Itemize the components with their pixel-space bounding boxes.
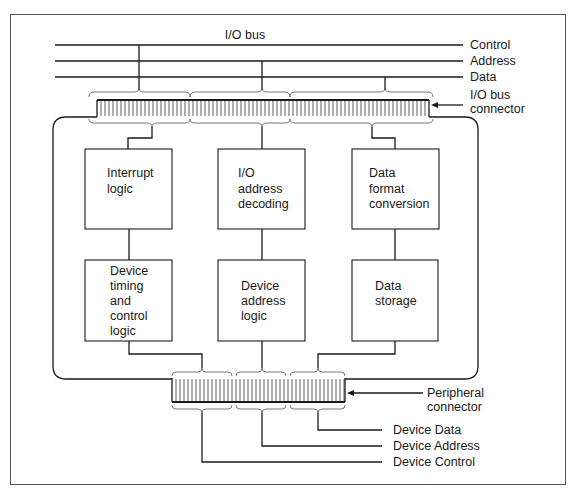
wire-timing-bottom [129,341,202,368]
peripheral-connector-label-1: Peripheral [427,386,484,400]
peripheral-connector [172,378,345,402]
wire-storage-bottom [318,341,395,368]
arrow-left-icon [431,102,438,108]
device-control-line [202,413,382,462]
io-connector-label-2: connector [470,102,525,116]
arrow-left-icon [347,390,354,396]
io-interface-diagram: I/O bus Control Address Data I/O bus con… [0,0,574,494]
bus-label-address: Address [470,54,516,68]
bus-label-data: Data [470,70,496,84]
wire-interrupt-top [128,127,152,149]
wire-data-format-top [372,127,395,149]
peripheral-top-braces [172,368,345,376]
bus-label-control: Control [470,38,510,52]
device-data-label: Device Data [393,423,461,437]
peripheral-bottom-braces [172,405,345,413]
outer-frame [11,15,566,485]
device-control-label: Device Control [393,455,475,469]
device-address-label: Device Address [393,439,480,453]
peripheral-connector-label-2: connector [427,400,482,414]
io-connector-bottom-braces [89,119,433,127]
io-connector-label-1: I/O bus [470,88,510,102]
io-bus-title: I/O bus [225,28,265,42]
io-bus-lines [55,45,463,90]
io-connector-top-braces [89,88,433,97]
device-data-line [318,413,382,430]
io-bus-connector [97,100,429,117]
